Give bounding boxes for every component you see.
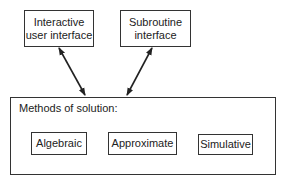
subroutine-interface-box: Subroutine interface xyxy=(120,10,191,47)
simulative-label: Simulative xyxy=(200,138,251,151)
interactive-user-interface-box: Interactive user interface xyxy=(24,10,94,47)
methods-of-solution-title: Methods of solution: xyxy=(19,102,117,114)
box-label-line2: interface xyxy=(129,29,182,42)
box-label-line2: user interface xyxy=(26,29,93,42)
approximate-box: Approximate xyxy=(108,132,177,155)
simulative-box: Simulative xyxy=(198,134,253,155)
algebraic-box: Algebraic xyxy=(31,132,87,155)
box-label-line1: Subroutine xyxy=(129,16,182,29)
approximate-label: Approximate xyxy=(112,137,174,150)
box-label-line1: Interactive xyxy=(26,16,93,29)
arrow-interactive-to-methods xyxy=(59,48,85,95)
arrow-subroutine-to-methods xyxy=(127,48,152,95)
algebraic-label: Algebraic xyxy=(36,137,82,150)
